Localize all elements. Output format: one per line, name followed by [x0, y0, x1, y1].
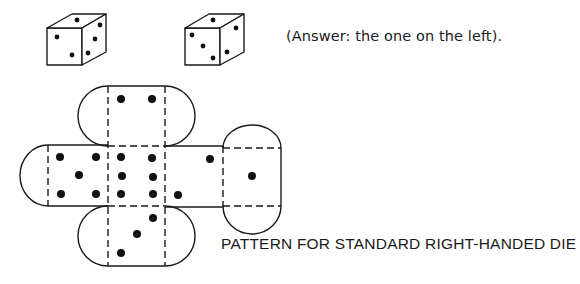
answer-text: (Answer: the one on the left). — [286, 28, 502, 44]
top-face-pips — [117, 95, 156, 103]
pattern-title: PATTERN FOR STANDARD RIGHT-HANDED DIE — [221, 235, 576, 253]
bottom-face-pips — [117, 214, 157, 257]
far-right-face-pips — [248, 172, 256, 180]
left-face-pips — [56, 153, 100, 198]
center-face-pips — [117, 153, 157, 198]
right-face-pips — [174, 155, 214, 199]
